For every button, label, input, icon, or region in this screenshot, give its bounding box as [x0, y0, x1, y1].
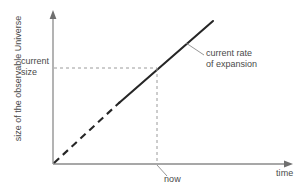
- chart-canvas: [0, 0, 306, 190]
- expansion-rate-line-1: current rate: [206, 48, 257, 59]
- now-annotation: now: [164, 174, 181, 185]
- y-axis-label: size of the observable Universe: [13, 5, 24, 153]
- expansion-rate-annotation: current rate of expansion: [206, 48, 257, 70]
- expansion-rate-line-2: of expansion: [206, 59, 257, 70]
- rate-leader-line: [186, 43, 204, 55]
- y-axis: [50, 10, 57, 164]
- x-axis: [53, 161, 293, 168]
- expansion-line-dashed: [54, 102, 120, 163]
- current-size-line-2: size: [21, 67, 49, 78]
- x-axis-label: time: [276, 168, 293, 179]
- expansion-line-solid: [119, 21, 213, 103]
- expansion-diagram: size of the observable Universe time cur…: [0, 0, 306, 190]
- current-size-line-1: current: [21, 56, 49, 67]
- current-size-annotation: current size: [21, 56, 49, 78]
